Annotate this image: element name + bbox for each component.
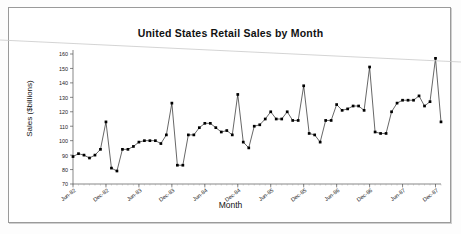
svg-text:80: 80 [62,167,68,173]
svg-text:110: 110 [59,124,68,130]
page-background: United States Retail Sales by Month 7080… [0,0,461,234]
svg-text:160: 160 [59,51,68,57]
chart-canvas: 708090100110120130140150160 Jun-82Dec-82… [9,8,452,224]
svg-text:100: 100 [59,138,68,144]
svg-text:140: 140 [59,80,68,86]
svg-text:70: 70 [62,181,68,187]
y-axis-title: Sales ($billions) [25,59,34,159]
plot-area: 708090100110120130140150160 Jun-82Dec-82… [9,8,452,224]
y-axis: 708090100110120130140150160 [59,50,73,187]
svg-text:150: 150 [59,66,68,72]
x-axis-title: Month [9,200,452,210]
data-series-retail-sales [72,57,443,172]
svg-text:130: 130 [59,95,68,101]
chart-frame: United States Retail Sales by Month 7080… [8,7,451,223]
svg-text:120: 120 [59,109,68,115]
svg-text:90: 90 [62,153,68,159]
